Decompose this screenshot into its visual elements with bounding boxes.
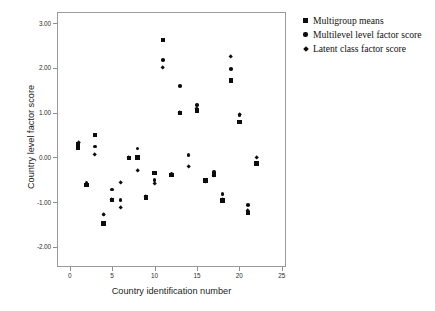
scatter-plot-figure: 3.002.001.000.00-1.00-2.00 0510152025 Co… (0, 0, 435, 311)
data-point (152, 171, 156, 175)
chart-legend: Multigroup meansMultilevel level factor … (300, 14, 432, 56)
x-tick-mark (282, 267, 283, 271)
data-point (221, 192, 225, 196)
data-point (161, 38, 165, 42)
data-point (246, 203, 250, 207)
x-tick-mark (155, 267, 156, 271)
legend-item-label: Multigroup means (311, 15, 384, 26)
data-point (93, 133, 97, 137)
y-tick-mark (53, 202, 57, 203)
x-tick-mark (197, 267, 198, 271)
legend-item-label: Multilevel level factor score (311, 29, 421, 40)
legend-item-label: Latent class factor score (311, 43, 406, 54)
data-point (101, 221, 105, 225)
data-point (229, 67, 233, 71)
data-point (229, 78, 233, 82)
y-tick-mark (53, 23, 57, 24)
legend-item[interactable]: Multilevel level factor score (300, 28, 432, 41)
x-tick-mark (70, 267, 71, 271)
x-axis-title: Country identification number (57, 286, 286, 296)
square-marker-icon (300, 18, 311, 23)
diamond-marker-icon (300, 47, 311, 51)
plot-area (57, 12, 286, 267)
legend-item[interactable]: Latent class factor score (300, 42, 432, 55)
x-tick-mark (112, 267, 113, 271)
y-axis-title: Country level factor score (26, 10, 36, 265)
data-point (237, 120, 241, 124)
y-tick-mark (53, 157, 57, 158)
data-point (178, 84, 182, 88)
y-tick-mark (53, 247, 57, 248)
x-tick-label: 15 (185, 272, 209, 280)
y-tick-mark (53, 113, 57, 114)
x-tick-label: 25 (270, 272, 294, 280)
x-tick-mark (239, 267, 240, 271)
data-point (135, 155, 139, 159)
x-tick-label: 5 (100, 272, 124, 280)
data-point (161, 58, 165, 62)
circle-marker-icon (300, 32, 311, 36)
legend-item[interactable]: Multigroup means (300, 14, 432, 27)
x-tick-label: 10 (143, 272, 167, 280)
x-tick-label: 20 (227, 272, 251, 280)
x-tick-label: 0 (58, 272, 82, 280)
y-tick-mark (53, 68, 57, 69)
